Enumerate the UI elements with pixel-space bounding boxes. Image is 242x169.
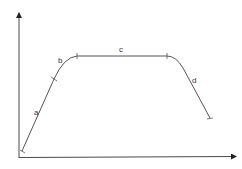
tick-a-b (51, 77, 57, 81)
x-axis (19, 157, 236, 158)
curve-segment-d (167, 56, 210, 118)
tick-end (207, 118, 213, 119)
label-a: a (34, 108, 39, 117)
label-d: d (192, 76, 196, 85)
label-c: c (119, 45, 123, 54)
label-b: b (58, 56, 63, 65)
diagram-canvas: a b c d (0, 0, 242, 169)
